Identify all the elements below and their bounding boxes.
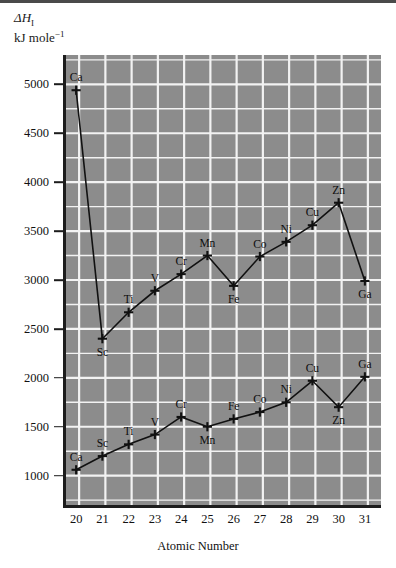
data-point-marker [177,412,186,421]
x-tick-label-21: 21 [96,512,109,527]
data-point-marker [255,407,264,416]
point-label-ti: Ti [124,425,134,437]
point-label-v: V [151,272,159,284]
data-point-marker [150,430,159,439]
y-tick-mark-1000 [54,475,63,477]
point-label-sc: Sc [97,437,109,449]
point-label-ni: Ni [280,223,292,235]
y-tick-label-4000: 4000 [3,175,49,190]
point-label-mn: Mn [199,434,215,446]
y-tick-label-4500: 4500 [3,126,49,141]
y-tick-mark-4000 [54,181,63,183]
x-axis-title: Atomic Number [0,539,396,554]
y-tick-label-1000: 1000 [3,468,49,483]
point-label-fe: Fe [228,293,240,305]
y-tick-mark-2000 [54,377,63,379]
point-label-ga: Ga [358,288,371,300]
point-label-ti: Ti [124,293,134,305]
y-tick-mark-4500 [54,132,63,134]
point-label-ga: Ga [358,358,371,370]
point-label-cr: Cr [175,398,187,410]
x-tick-label-26: 26 [227,512,240,527]
data-point-marker [229,414,238,423]
data-point-marker [360,276,369,285]
x-tick-label-24: 24 [175,512,188,527]
point-label-ca: Ca [70,451,83,463]
point-label-zn: Zn [332,184,345,196]
data-point-marker [124,440,133,449]
series-line-0 [76,90,365,338]
point-label-fe: Fe [228,400,240,412]
y-tick-mark-1500 [54,426,63,428]
point-label-cu: Cu [306,206,319,218]
point-label-co: Co [253,238,266,250]
data-point-marker [72,86,81,95]
y-tick-label-3000: 3000 [3,273,49,288]
x-tick-label-22: 22 [122,512,135,527]
y-tick-mark-3500 [54,230,63,232]
y-tick-mark-5000 [54,84,63,86]
point-label-cu: Cu [306,362,319,374]
point-label-v: V [151,416,159,428]
ionisation-enthalpy-chart: ΔHI kJ mole−1 10001500200025003000350040… [0,0,396,568]
y-tick-mark-3000 [54,279,63,281]
point-label-mn: Mn [199,237,215,249]
point-label-co: Co [253,393,266,405]
point-label-sc: Sc [97,346,109,358]
x-tick-label-29: 29 [306,512,319,527]
y-tick-label-2000: 2000 [3,370,49,385]
data-point-marker [203,422,212,431]
x-tick-label-27: 27 [254,512,267,527]
y-tick-label-3500: 3500 [3,224,49,239]
y-tick-label-2500: 2500 [3,321,49,336]
y-tick-mark-2500 [54,328,63,330]
data-series-overlay [63,55,378,505]
x-tick-label-30: 30 [332,512,345,527]
data-point-marker [282,237,291,246]
series-line-1 [76,377,365,470]
y-tick-label-1500: 1500 [3,419,49,434]
y-axis-ticks: 100015002000250030003500400045005000 [0,0,63,568]
data-point-marker [98,451,107,460]
y-tick-label-5000: 5000 [3,77,49,92]
x-tick-label-31: 31 [359,512,372,527]
point-label-ni: Ni [280,383,292,395]
x-tick-label-20: 20 [70,512,83,527]
x-tick-label-28: 28 [280,512,293,527]
x-tick-label-23: 23 [149,512,162,527]
x-tick-label-25: 25 [201,512,214,527]
point-label-zn: Zn [332,414,345,426]
data-point-marker [72,465,81,474]
point-label-cr: Cr [175,255,187,267]
point-label-ca: Ca [70,71,83,83]
